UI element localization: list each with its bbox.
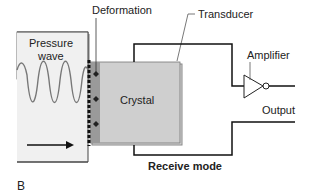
- deformation-label: Deformation: [92, 4, 152, 16]
- pressure-label: Pressure: [29, 37, 73, 49]
- amplifier-label: Amplifier: [247, 49, 290, 61]
- wave-label: wave: [38, 50, 64, 62]
- amplifier-triangle: [244, 75, 263, 98]
- mode-label: Receive mode: [148, 160, 222, 172]
- output-label: Output: [262, 104, 295, 116]
- panel-label: B: [17, 179, 25, 193]
- crystal-label: Crystal: [120, 94, 154, 106]
- transducer-label: Transducer: [198, 8, 253, 20]
